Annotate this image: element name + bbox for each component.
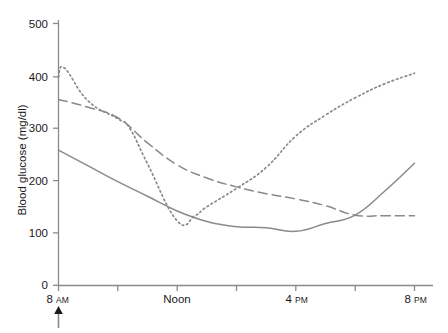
series-dashed-series: [59, 99, 415, 216]
y-axis-title: Blood glucose (mg/dl): [16, 104, 28, 215]
blood-glucose-chart: Blood glucose (mg/dl) 500 400 300 200 10…: [0, 0, 448, 333]
chart-canvas: Blood glucose (mg/dl) 500 400 300 200 10…: [0, 0, 448, 333]
series-dotted-series: [59, 67, 415, 226]
series-solid-series: [59, 150, 415, 231]
y-tick-label-500: 500: [29, 18, 48, 30]
x-tick-label-noon: Noon: [163, 293, 191, 305]
x-tick-label-8pm: 8 PM: [405, 293, 427, 305]
x-tick-label-4pm: 4 PM: [286, 293, 308, 305]
x-tick-label-8pm-suffix: PM: [414, 295, 427, 305]
y-tick-label-200: 200: [29, 175, 48, 187]
x-tick-label-8am: 8 AM: [47, 293, 69, 305]
x-tick-label-4pm-suffix: PM: [295, 295, 308, 305]
x-tick-label-8am-suffix: AM: [56, 295, 69, 305]
y-tick-label-100: 100: [29, 227, 48, 239]
x-tick-label-8pm-main: 8: [405, 293, 411, 305]
y-tick-label-300: 300: [29, 122, 48, 134]
y-tick-label-400: 400: [29, 71, 48, 83]
meal-arrow-icon: [54, 306, 63, 328]
x-tick-label-4pm-main: 4: [286, 293, 293, 305]
series-group: [59, 67, 415, 232]
y-tick-label-0: 0: [42, 279, 48, 291]
x-tick-label-8am-main: 8: [47, 293, 53, 305]
